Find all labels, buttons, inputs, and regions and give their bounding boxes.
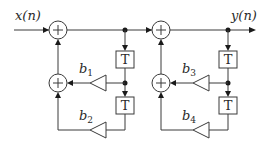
coef-b4: b4 xyxy=(182,108,196,125)
coef-b2: b2 xyxy=(79,108,93,125)
arrow-icon xyxy=(146,27,152,33)
coef-b1: b1 xyxy=(79,61,93,78)
arrow-icon xyxy=(122,91,128,97)
arrow-icon xyxy=(122,45,128,51)
svg-text:T: T xyxy=(224,52,233,67)
svg-text:T: T xyxy=(121,98,130,113)
arrow-icon xyxy=(170,80,176,86)
arrow-icon xyxy=(158,39,164,45)
input-label: x(n) xyxy=(15,8,41,23)
arrow-icon xyxy=(43,27,49,33)
section-2: T T b3 b4 xyxy=(152,21,237,138)
arrow-icon xyxy=(225,45,231,51)
section-1: T T b1 b2 xyxy=(49,21,134,138)
signal-flow-diagram: x(n) y(n) T T xyxy=(0,0,271,150)
arrow-icon xyxy=(55,92,61,98)
arrow-icon xyxy=(158,92,164,98)
svg-text:T: T xyxy=(224,98,233,113)
arrow-icon xyxy=(225,91,231,97)
coef-b3: b3 xyxy=(182,61,196,78)
svg-text:T: T xyxy=(121,52,130,67)
output-label: y(n) xyxy=(230,8,257,23)
output-arrow-icon xyxy=(249,27,256,33)
arrow-icon xyxy=(67,80,73,86)
arrow-icon xyxy=(55,39,61,45)
